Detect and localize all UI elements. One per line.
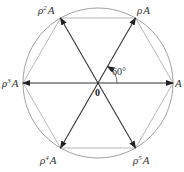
label-rho3A: ρ3A	[1, 77, 19, 89]
label-rhoA: ρA	[136, 4, 150, 16]
radius-vectors	[23, 18, 173, 148]
hexagon-rotation-diagram: 60° 0 A ρA ρ2A ρ3A ρ4A ρ5A	[0, 0, 184, 172]
label-rho5A: ρ5A	[132, 154, 150, 166]
label-rho4A: ρ4A	[39, 154, 57, 166]
center-label: 0	[95, 87, 100, 98]
label-A: A	[174, 77, 182, 89]
angle-label: 60°	[112, 66, 126, 77]
label-rho2A: ρ2A	[37, 4, 55, 16]
vector-rho5A	[98, 83, 136, 148]
vector-rho4A	[61, 83, 99, 148]
vector-rho2A	[61, 18, 99, 83]
